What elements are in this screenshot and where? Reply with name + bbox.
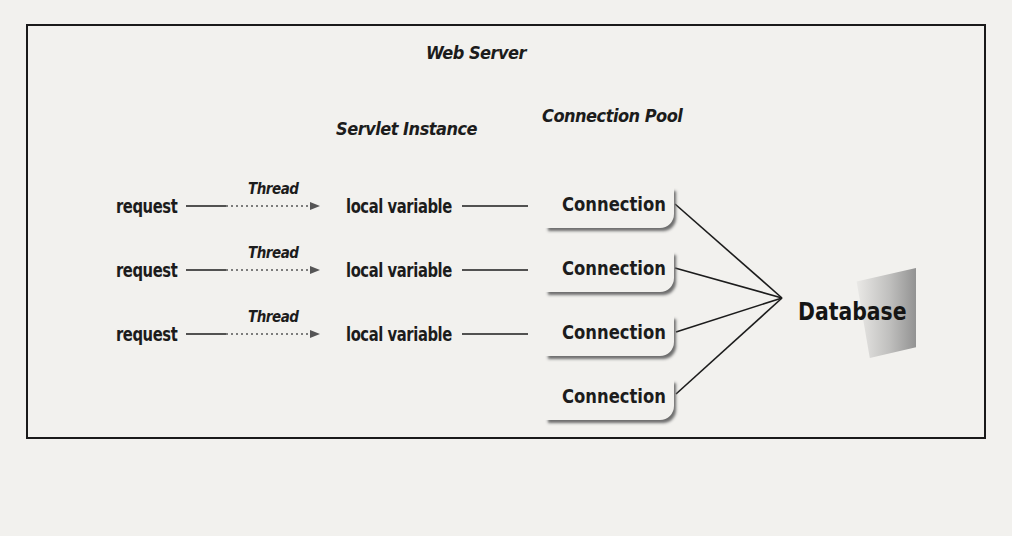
- local-variable-label: local variable: [346, 194, 452, 218]
- servlet-instance-header: Servlet Instance: [336, 118, 477, 139]
- thread-label: Thread: [248, 244, 298, 262]
- connection-pool-header: Connection Pool: [542, 105, 682, 126]
- connection-label: Connection: [562, 192, 666, 216]
- web-server-label: Web Server: [426, 42, 526, 63]
- connection-label: Connection: [562, 256, 666, 280]
- local-variable-label: local variable: [346, 322, 452, 346]
- thread-label: Thread: [248, 308, 298, 326]
- request-label: request: [116, 194, 177, 218]
- connection-label: Connection: [562, 384, 666, 408]
- database-label: Database: [798, 298, 907, 326]
- connection-label: Connection: [562, 320, 666, 344]
- thread-label: Thread: [248, 180, 298, 198]
- request-label: request: [116, 258, 177, 282]
- local-variable-label: local variable: [346, 258, 452, 282]
- request-label: request: [116, 322, 177, 346]
